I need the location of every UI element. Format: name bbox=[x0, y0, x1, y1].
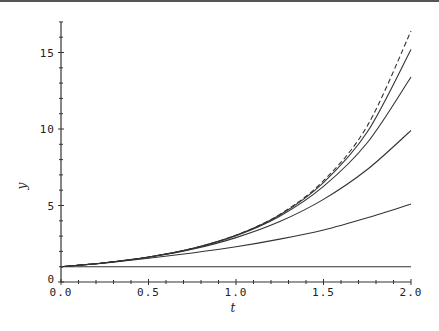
axes: 0.00.51.01.52.0051015 bbox=[40, 22, 423, 299]
chart: 0.00.51.01.52.0051015 t y bbox=[0, 0, 439, 331]
x-tick-label: 0.5 bbox=[137, 286, 160, 299]
series-line-0 bbox=[61, 31, 411, 267]
y-tick-label: 5 bbox=[47, 200, 55, 213]
y-tick-label: 10 bbox=[40, 123, 55, 136]
plot-lines bbox=[61, 31, 411, 267]
x-axis-label: t bbox=[231, 301, 236, 315]
x-tick-label: 0.0 bbox=[50, 286, 73, 299]
y-axis-label: y bbox=[15, 182, 29, 190]
y-tick-label: 0 bbox=[47, 273, 55, 286]
x-tick-label: 1.0 bbox=[225, 286, 248, 299]
series-line-2 bbox=[61, 77, 411, 267]
series-line-1 bbox=[61, 49, 411, 266]
y-tick-label: 15 bbox=[40, 47, 55, 60]
x-tick-label: 2.0 bbox=[400, 286, 423, 299]
x-tick-label: 1.5 bbox=[312, 286, 335, 299]
